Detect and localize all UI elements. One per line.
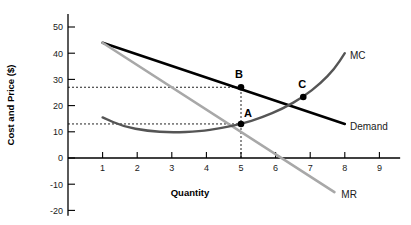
series-line-demand xyxy=(103,43,345,124)
point-label-c: C xyxy=(298,78,306,90)
x-tick-label: 8 xyxy=(342,163,347,173)
series-label-demand: Demand xyxy=(350,121,388,132)
annotation-points-group: ABC xyxy=(235,68,307,127)
x-tick-label: 1 xyxy=(100,163,105,173)
x-tick-label: 4 xyxy=(204,163,209,173)
y-tick-label: 50 xyxy=(53,22,63,32)
point-marker-a xyxy=(238,121,245,128)
x-tick-label: 5 xyxy=(238,163,243,173)
point-marker-c xyxy=(300,94,307,101)
series-labels-group: MCDemandMR xyxy=(341,50,387,200)
y-tick-label: 40 xyxy=(53,49,63,59)
x-tick-label: 9 xyxy=(377,163,382,173)
point-marker-b xyxy=(238,84,245,91)
point-label-a: A xyxy=(244,107,252,119)
y-tick-label: 0 xyxy=(58,153,63,163)
point-label-b: B xyxy=(235,68,243,80)
series-label-mc: MC xyxy=(350,50,366,61)
y-tick-label: -20 xyxy=(50,206,63,216)
y-tick-label: 20 xyxy=(53,101,63,111)
x-tick-label: 7 xyxy=(308,163,313,173)
chart-canvas: 50403020100-10-20123456789 ABC MCDemandM… xyxy=(0,0,411,225)
y-tick-label: -10 xyxy=(50,180,63,190)
y-tick-label: 10 xyxy=(53,127,63,137)
x-tick-label: 3 xyxy=(169,163,174,173)
x-axis-title: Quantity xyxy=(171,187,210,198)
x-tick-label: 2 xyxy=(135,163,140,173)
axes-group xyxy=(68,14,400,216)
y-axis-title: Cost and Price ($) xyxy=(5,65,16,146)
economics-chart: 50403020100-10-20123456789 ABC MCDemandM… xyxy=(0,0,411,225)
guide-lines-group xyxy=(68,87,241,158)
y-tick-label: 30 xyxy=(53,75,63,85)
series-label-mr: MR xyxy=(341,189,357,200)
x-tick-label: 6 xyxy=(273,163,278,173)
